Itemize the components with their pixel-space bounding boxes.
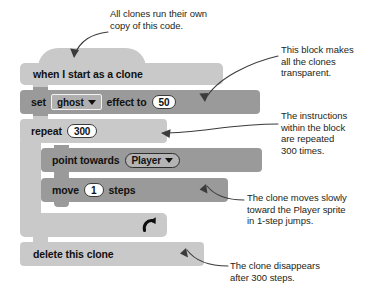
annotation-transparent: This block makes all the clones transpar… [281,44,354,79]
repeat-bottom-bar [20,213,167,237]
block-set-ghost-effect[interactable]: set ghost effect to 50 [20,90,260,114]
dropdown-value: ghost [57,97,84,108]
block-when-i-start-as-a-clone[interactable]: when I start as a clone [20,63,223,85]
block-repeat[interactable]: repeat 300 [20,119,167,143]
annotation-clones-own-copy: All clones run their own copy of this co… [110,8,207,31]
annotation-moves-slowly: The clone moves slowly toward the Player… [247,192,347,227]
chevron-down-icon [165,158,173,163]
move-label: move [52,184,79,196]
block-delete-this-clone[interactable]: delete this clone [20,242,204,266]
repeat-left-arm [20,141,41,215]
repeat-label: repeat [31,125,62,137]
move-steps-input[interactable]: 1 [84,183,103,197]
annotation-repeat-300: The instructions within the block are re… [281,110,347,156]
point-towards-target-dropdown[interactable]: Player [125,153,180,168]
annotation-disappears: The clone disappears after 300 steps. [230,260,320,283]
effect-value-input[interactable]: 50 [152,95,177,109]
point-towards-label: point towards [52,154,120,166]
steps-label: steps [109,184,136,196]
block-label: when I start as a clone [33,68,143,80]
repeat-count-input[interactable]: 300 [67,124,97,138]
dropdown-value: Player [132,155,161,166]
block-point-towards[interactable]: point towards Player [41,148,262,172]
chevron-down-icon [88,100,96,105]
effect-to-label: effect to [107,96,147,108]
block-label: delete this clone [33,248,114,260]
loop-arrow-icon [140,216,160,234]
block-move-steps[interactable]: move 1 steps [41,178,228,202]
ghost-effect-dropdown[interactable]: ghost [51,94,102,110]
scratch-script-figure: All clones run their own copy of this co… [0,0,378,296]
set-label: set [31,96,46,108]
